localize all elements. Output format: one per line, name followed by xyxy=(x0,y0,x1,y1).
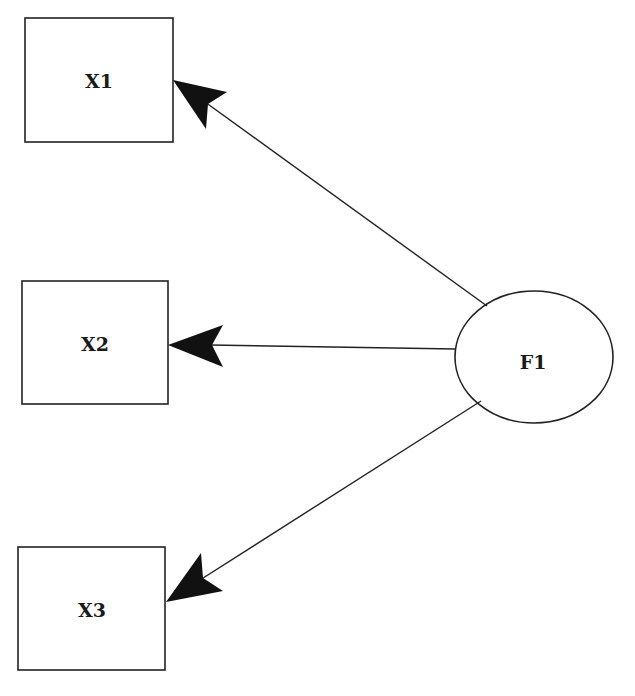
arrowhead-icon xyxy=(173,80,227,129)
x3-label: X3 xyxy=(78,599,106,621)
arrowhead-icon xyxy=(166,553,223,602)
edge-line xyxy=(210,345,456,349)
f1-label: F1 xyxy=(520,351,547,373)
node-x3: X3 xyxy=(18,547,165,670)
node-x2: X2 xyxy=(22,281,168,404)
node-x1: X1 xyxy=(25,18,173,142)
edge-f1-x3 xyxy=(166,401,481,602)
edge-line xyxy=(205,102,487,306)
arrowhead-icon xyxy=(168,325,223,367)
path-diagram-canvas: X1 X2 X3 F1 xyxy=(0,0,635,696)
edge-f1-x1 xyxy=(173,80,487,306)
x2-label: X2 xyxy=(81,333,109,355)
edge-f1-x2 xyxy=(168,325,456,367)
x1-label: X1 xyxy=(85,70,113,92)
edge-line xyxy=(200,401,481,580)
